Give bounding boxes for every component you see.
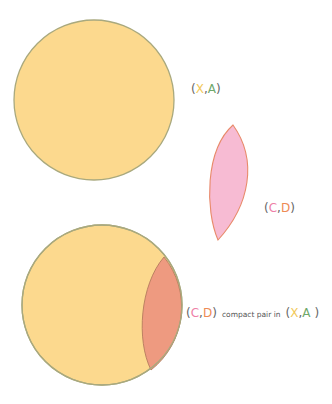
symbol-a: A	[208, 82, 216, 96]
diagram-canvas: (X,A) (C,D) (C,D) compact pair in (X,A )	[0, 0, 332, 404]
paren-close: )	[212, 306, 217, 320]
space-circle-top	[14, 20, 174, 180]
symbol-a: A	[302, 306, 310, 320]
symbol-c: C	[191, 306, 199, 320]
caption-compact-pair: (C,D) compact pair in (X,A )	[186, 302, 319, 321]
symbol-c: C	[269, 201, 277, 215]
symbol-d: D	[281, 201, 290, 215]
paren-close: )	[290, 201, 295, 215]
caption-text: compact pair in	[222, 310, 281, 319]
symbol-x: X	[196, 82, 204, 96]
label-space-xa: (X,A)	[191, 82, 221, 96]
symbol-x: X	[290, 306, 298, 320]
label-pair-cd: (C,D)	[264, 201, 295, 215]
paren-close: )	[311, 306, 320, 320]
pair-lens	[210, 125, 248, 240]
paren-close: )	[216, 82, 221, 96]
symbol-d: D	[203, 306, 212, 320]
